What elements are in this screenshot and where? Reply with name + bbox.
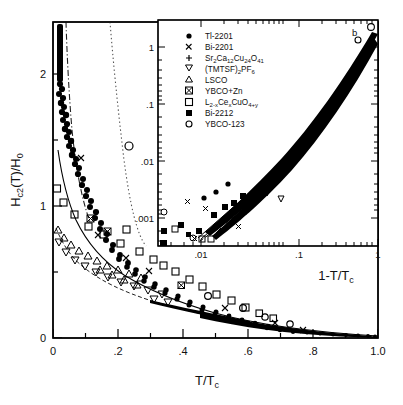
y-tick-1: 1	[40, 200, 46, 212]
xaxis-sub-text: c	[215, 380, 220, 390]
figure-container: 0 .2 .4 .6 .8 1.0 0 1 2 T/Tc Hc2(T)/H0	[0, 0, 403, 405]
legend-label-bi-2212: Bi-2212	[205, 109, 234, 118]
inset-x-tick-0: .01	[194, 249, 207, 260]
legend-label-tmtsf: (TMTSF)2PF6	[205, 65, 256, 75]
x-tick-2: .4	[178, 345, 187, 357]
yaxis-zero: 0	[15, 153, 25, 158]
inset-xaxis-sub: c	[349, 275, 354, 285]
svg-text:Hc2(T)/H0: Hc2(T)/H0	[8, 153, 25, 207]
inset-xaxis-main: 1-T/T	[318, 268, 349, 283]
x-tick-5: 1.0	[370, 345, 385, 357]
yaxis-h: H	[8, 197, 23, 206]
inset-annotation-b: b	[352, 27, 357, 38]
x-tick-0: 0	[50, 345, 56, 357]
legend-marker-tl-2201	[186, 33, 191, 38]
yaxis-t: (T)/H	[8, 158, 23, 188]
scientific-figure: 0 .2 .4 .6 .8 1.0 0 1 2 T/Tc Hc2(T)/H0	[0, 0, 403, 405]
inset-y-tick-3: .001	[136, 213, 155, 224]
legend-label-lsco: LSCO	[205, 76, 227, 85]
main-y-axis-title: Hc2(T)/H0	[8, 153, 25, 207]
xaxis-main-text: T/T	[195, 373, 215, 388]
inset-x-tick-1: .1	[295, 249, 303, 260]
x-tick-4: .8	[308, 345, 317, 357]
inset-x-tick-2: 1	[375, 249, 380, 260]
inset-y-tick-2: .01	[141, 156, 154, 167]
legend-label-ybco-123: YBCO-123	[205, 120, 245, 129]
inset-x-axis-title: 1-T/Tc	[318, 268, 354, 285]
x-tick-1: .2	[113, 345, 122, 357]
yaxis-c2: c2	[15, 188, 25, 198]
legend-label-bi-2201: Bi-2201	[205, 43, 234, 52]
inset-y-tick-1: .1	[146, 99, 154, 110]
y-tick-0: 0	[40, 332, 46, 344]
inset-y-tick-0: 1	[149, 42, 154, 53]
x-tick-3: .6	[243, 345, 252, 357]
legend-label-tl-2201: Tl-2201	[205, 32, 233, 41]
legend-marker-bi-2212	[186, 110, 192, 116]
legend-label-ybco-zn: YBCO+Zn	[205, 87, 243, 96]
y-tick-2: 2	[40, 68, 46, 80]
